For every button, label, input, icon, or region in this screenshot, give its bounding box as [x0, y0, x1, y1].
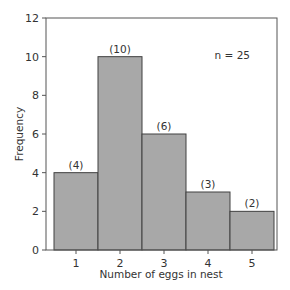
bar-value-label: (6)	[157, 120, 172, 132]
x-tick-label: 5	[249, 257, 256, 270]
y-axis-label: Frequency	[13, 107, 25, 161]
bar-1	[54, 173, 98, 250]
y-tick-label: 4	[32, 167, 39, 180]
bar-2	[98, 57, 142, 250]
bars-group	[54, 57, 274, 250]
y-tick-label: 2	[32, 205, 39, 218]
x-axis-label: Number of eggs in nest	[99, 268, 222, 280]
x-tick-label: 1	[73, 257, 80, 270]
y-tick-label: 8	[32, 89, 39, 102]
bar-5	[230, 211, 274, 250]
y-tick-label: 6	[32, 128, 39, 141]
bar-value-label: (2)	[245, 197, 260, 209]
histogram-chart: (4)(10)(6)(3)(2) 024681012 12345 Number …	[0, 0, 290, 290]
y-tick-label: 0	[32, 244, 39, 257]
bar-value-label: (10)	[109, 43, 131, 55]
y-axis-ticks: 024681012	[25, 12, 46, 257]
x-axis-ticks: 12345	[73, 250, 256, 270]
bar-value-label: (4)	[69, 159, 84, 171]
sample-size-annotation: n = 25	[215, 49, 251, 61]
y-tick-label: 12	[25, 12, 39, 25]
bar-3	[142, 134, 186, 250]
bar-value-label: (3)	[201, 178, 216, 190]
bar-4	[186, 192, 230, 250]
y-tick-label: 10	[25, 51, 39, 64]
